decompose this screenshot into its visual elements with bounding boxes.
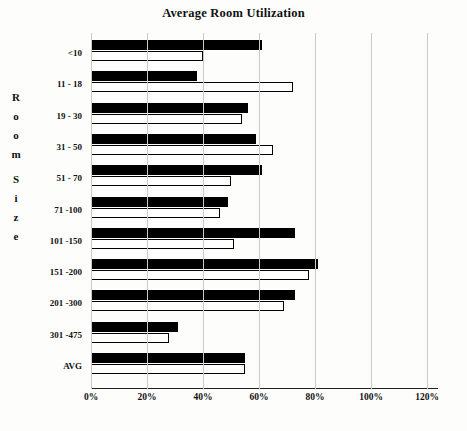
category-label-10: <10 (68, 48, 82, 58)
gridline-100 (371, 33, 372, 389)
gridline-120 (427, 33, 428, 389)
bar-dark (91, 40, 262, 50)
category-label-avg: AVG (63, 361, 82, 371)
x-axis-labels: 0%20%40%60%80%100%120% (0, 392, 467, 408)
x-tick-label-80: 80% (306, 392, 325, 402)
bar-light (91, 114, 242, 124)
x-tick-label-20: 20% (138, 392, 157, 402)
bar-light (91, 176, 231, 186)
bar-dark (91, 103, 248, 113)
category-label-19-30: 19 - 30 (57, 111, 83, 121)
category-label-101-150: 101 -150 (50, 236, 82, 246)
bar-dark (91, 228, 295, 238)
x-tick-label-100: 100% (359, 392, 383, 402)
bar-light (91, 239, 234, 249)
bar-light (91, 301, 284, 311)
bar-dark (91, 197, 228, 207)
bar-dark (91, 259, 318, 269)
category-label-71-100: 71 -100 (54, 205, 82, 215)
bar-light (91, 82, 293, 92)
gridline-40 (203, 33, 204, 389)
bar-dark (91, 165, 262, 175)
category-label-201-300: 201 -300 (50, 298, 82, 308)
bar-dark (91, 353, 245, 363)
x-tick-label-120: 120% (415, 392, 439, 402)
bar-dark (91, 322, 178, 332)
gridline-20 (147, 33, 148, 389)
category-label-151-200: 151 -200 (50, 267, 82, 277)
bar-dark (91, 290, 295, 300)
category-label-31-50: 31 - 50 (57, 142, 83, 152)
plot-area (91, 33, 427, 383)
bar-dark (91, 134, 256, 144)
bar-light (91, 208, 220, 218)
x-axis-line (91, 388, 438, 389)
category-label-11-18: 11 - 18 (57, 79, 82, 89)
x-tick-label-40: 40% (194, 392, 213, 402)
bar-dark (91, 71, 197, 81)
category-axis: <1011 - 1819 - 3031 - 5051 - 7071 -10010… (0, 33, 88, 383)
bar-light (91, 333, 169, 343)
chart-container: Average Room Utilization R o o m S i z e… (0, 0, 467, 431)
x-tick-label-60: 60% (250, 392, 269, 402)
category-label-301-475: 301 -475 (50, 330, 82, 340)
bar-light (91, 364, 245, 374)
category-label-51-70: 51 - 70 (57, 173, 83, 183)
gridline-60 (259, 33, 260, 389)
gridline-0 (91, 33, 92, 389)
bar-light (91, 270, 309, 280)
chart-title: Average Room Utilization (0, 6, 467, 21)
gridline-80 (315, 33, 316, 389)
bar-light (91, 145, 273, 155)
x-tick-label-0: 0% (84, 392, 98, 402)
